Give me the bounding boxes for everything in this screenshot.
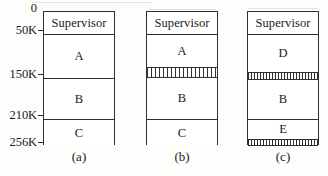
memory-block-label: Supervisor bbox=[255, 17, 310, 30]
free-hole-band bbox=[248, 72, 318, 80]
memory-block-supervisor: Supervisor bbox=[248, 12, 318, 34]
memory-block-label: C bbox=[178, 127, 186, 140]
axis-label-150k: 150K bbox=[10, 68, 37, 81]
figure-canvas: 050K150K210K256K SupervisorABC Superviso… bbox=[0, 0, 328, 176]
memory-block-label: D bbox=[278, 47, 287, 60]
memory-block-label: A bbox=[74, 50, 83, 63]
memory-block-a: A bbox=[44, 34, 114, 78]
memory-block-label: B bbox=[75, 93, 83, 106]
axis-label-256k: 256K bbox=[10, 136, 37, 149]
memory-block-c: C bbox=[147, 119, 217, 146]
memory-block-supervisor: Supervisor bbox=[147, 12, 217, 34]
memory-block-label: B bbox=[279, 93, 287, 106]
scan-smudge-2 bbox=[248, 8, 318, 9]
memory-address-axis: 050K150K210K256K bbox=[0, 8, 43, 148]
memory-block-label: C bbox=[75, 127, 83, 140]
memory-block-e: E bbox=[248, 119, 318, 139]
axis-label-50k: 50K bbox=[16, 24, 37, 37]
memory-block-c: C bbox=[44, 119, 114, 146]
memory-block-label: E bbox=[279, 123, 287, 136]
axis-label-210k: 210K bbox=[10, 109, 37, 122]
free-hole-band bbox=[147, 67, 217, 78]
memory-block-b: B bbox=[147, 78, 217, 119]
memory-block-supervisor: Supervisor bbox=[44, 12, 114, 34]
scan-smudge-0 bbox=[32, 2, 152, 3]
memory-block-a: A bbox=[147, 34, 217, 67]
caption-c: (c) bbox=[247, 150, 319, 163]
memory-block-label: A bbox=[177, 45, 186, 58]
memory-block-b: B bbox=[44, 78, 114, 119]
free-hole-band bbox=[248, 139, 318, 146]
memory-block-label: B bbox=[178, 92, 186, 105]
memory-block-label: Supervisor bbox=[154, 17, 209, 30]
memory-block-b: B bbox=[248, 80, 318, 119]
axis-label-0: 0 bbox=[31, 2, 37, 15]
memory-diagram-c: SupervisorDBE bbox=[247, 11, 319, 145]
caption-b: (b) bbox=[146, 150, 218, 163]
caption-a: (a) bbox=[43, 150, 115, 163]
memory-block-label: Supervisor bbox=[51, 17, 106, 30]
memory-block-d: D bbox=[248, 34, 318, 72]
scan-smudge-1 bbox=[148, 9, 216, 10]
memory-diagram-b: SupervisorABC bbox=[146, 11, 218, 145]
memory-diagram-a: SupervisorABC bbox=[43, 11, 115, 145]
